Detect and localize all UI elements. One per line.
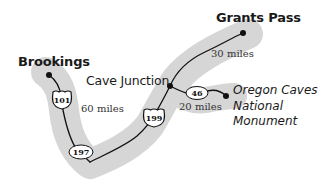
distance-20-label: 20 miles [179, 102, 222, 112]
or-197-label: 197 [73, 147, 90, 157]
us-101-shield-icon: 101 [53, 91, 72, 109]
brookings-label: Brookings [18, 55, 90, 68]
us-199-shield-icon: 199 [144, 109, 165, 127]
cave-junction-label: Cave Junction [86, 75, 169, 88]
us-199-label: 199 [146, 113, 163, 123]
oregon-caves-dot [223, 93, 229, 99]
oregon-caves-line-2: National [233, 99, 318, 115]
brookings-dot [46, 72, 52, 78]
or-46-oval-icon: 46 [186, 87, 208, 100]
oregon-caves-label: Oregon Caves National Monument [233, 83, 318, 130]
route-map: 101 199 197 46 Brookings Cave Junction G… [0, 0, 322, 184]
grants-pass-dot [240, 30, 246, 36]
distance-60-label: 60 miles [81, 104, 124, 114]
distance-30-label: 30 miles [211, 49, 254, 59]
oregon-caves-line-3: Monument [233, 114, 318, 130]
oregon-caves-line-1: Oregon Caves [233, 83, 318, 99]
or-46-label: 46 [191, 88, 203, 98]
or-197-oval-icon: 197 [69, 145, 93, 159]
us-101-label: 101 [54, 95, 71, 105]
grants-pass-label: Grants Pass [216, 11, 301, 24]
